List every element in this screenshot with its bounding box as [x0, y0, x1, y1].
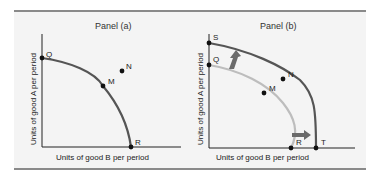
panel-a-ppc-curve: [42, 58, 131, 147]
panel-b-x-label: Units of good B per period: [216, 153, 309, 162]
panel-b-point-m: [262, 91, 267, 96]
panel-b-title: Panel (b): [260, 21, 297, 31]
panel-a: Panel (a) Units of good A per period Uni…: [29, 21, 181, 162]
panel-b-label-r: R: [296, 138, 302, 147]
panel-a-x-label: Units of good B per period: [56, 153, 149, 162]
panel-b-label-t: T: [321, 138, 326, 147]
panel-a-label-m: M: [108, 77, 115, 86]
panel-b-point-t: [314, 146, 319, 151]
panel-a-label-n: N: [126, 62, 132, 71]
panel-b-label-q: Q: [213, 55, 219, 64]
panel-b-point-q: [207, 63, 212, 68]
panel-a-y-label: Units of good A per period: [29, 53, 38, 145]
panel-b-point-s: [207, 41, 212, 46]
panel-a-point-m: [101, 84, 106, 89]
panel-b-y-label: Units of good A per period: [196, 53, 205, 145]
panel-b-label-s: S: [213, 33, 218, 42]
panel-b: Panel (b) Units of good A per period Uni…: [196, 21, 355, 162]
panel-a-point-q: [40, 56, 45, 61]
panel-b-point-n: [281, 77, 286, 82]
panel-a-point-n: [120, 69, 125, 74]
panel-a-label-q: Q: [46, 50, 52, 59]
ppc-diagram: Panel (a) Units of good A per period Uni…: [0, 0, 380, 178]
panel-b-shift-up-arrow: [229, 50, 241, 69]
panel-a-title: Panel (a): [95, 21, 132, 31]
panel-b-shifted-ppc-curve: [209, 43, 316, 148]
panel-a-label-r: R: [135, 138, 141, 147]
panel-a-point-r: [129, 145, 134, 150]
panel-b-point-r: [289, 146, 294, 151]
panel-b-label-m: M: [269, 84, 276, 93]
panel-b-label-n: N: [288, 70, 294, 79]
